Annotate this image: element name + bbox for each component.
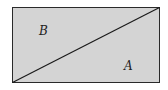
label-a: A bbox=[123, 59, 133, 73]
label-b: B bbox=[38, 24, 48, 38]
diagram: B A bbox=[0, 0, 168, 90]
